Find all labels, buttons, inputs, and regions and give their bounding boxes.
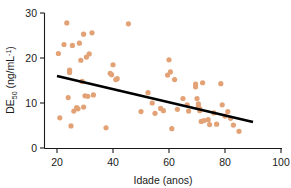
data-point xyxy=(145,90,150,95)
data-point xyxy=(110,62,115,67)
y-tick-label: 10 xyxy=(25,97,37,109)
y-axis-tick-labels: 30 20 10 0 xyxy=(25,7,37,154)
x-tick-label: 40 xyxy=(107,156,119,168)
x-tick-label: 60 xyxy=(163,156,175,168)
y-axis-ticks xyxy=(40,13,45,148)
x-axis-ticks xyxy=(57,149,281,154)
data-point xyxy=(161,108,166,113)
svg-text:DE50 (ng/mL-1): DE50 (ng/mL-1) xyxy=(4,46,18,114)
data-point xyxy=(85,94,90,99)
data-point xyxy=(64,20,69,25)
data-point xyxy=(81,32,86,37)
data-point xyxy=(193,84,198,89)
data-point xyxy=(152,111,157,116)
data-point xyxy=(61,42,66,47)
data-point xyxy=(67,70,72,75)
data-point xyxy=(70,43,75,48)
x-axis-tick-labels: 20 40 60 80 100 xyxy=(51,156,290,168)
data-point xyxy=(186,109,191,114)
data-point xyxy=(75,106,80,111)
data-point xyxy=(218,81,223,86)
y-axis-title-units-post: ) xyxy=(4,46,16,50)
y-axis-title-units-pre: (ng/mL xyxy=(4,56,16,92)
y-axis-title: DE50 (ng/mL-1) xyxy=(4,46,18,114)
data-point xyxy=(150,100,155,105)
data-point xyxy=(200,80,205,85)
y-axis-title-subscript: 50 xyxy=(11,91,18,99)
data-point xyxy=(206,117,211,122)
data-point xyxy=(169,126,174,131)
chart-canvas: 30 20 10 0 20 40 60 80 100 Idade (anos) … xyxy=(0,0,291,188)
data-point xyxy=(56,51,61,56)
data-point xyxy=(87,51,92,56)
data-point xyxy=(103,125,108,130)
data-point xyxy=(81,104,86,109)
data-point xyxy=(77,41,82,46)
data-point xyxy=(57,115,62,120)
data-point xyxy=(68,123,73,128)
data-point xyxy=(66,95,71,100)
x-tick-label: 100 xyxy=(272,156,290,168)
data-point xyxy=(180,96,185,101)
data-point xyxy=(115,76,120,81)
data-point xyxy=(175,107,180,112)
data-point xyxy=(168,69,173,74)
y-tick-label: 20 xyxy=(25,52,37,64)
x-axis-title: Idade (anos) xyxy=(134,174,193,186)
data-point xyxy=(166,57,171,62)
data-point xyxy=(207,122,212,127)
data-point xyxy=(225,109,230,114)
data-point xyxy=(194,96,199,101)
data-point xyxy=(91,92,96,97)
y-tick-label: 30 xyxy=(25,7,37,19)
y-axis-title-main: DE xyxy=(4,99,16,114)
data-point xyxy=(78,58,83,63)
data-point xyxy=(138,109,143,114)
data-point xyxy=(214,122,219,127)
data-point xyxy=(236,129,241,134)
data-point xyxy=(126,21,131,26)
data-point xyxy=(172,77,177,82)
data-point xyxy=(231,122,236,127)
data-point xyxy=(109,72,114,77)
data-point xyxy=(89,30,94,35)
data-points-layer xyxy=(56,20,242,134)
x-tick-label: 80 xyxy=(219,156,231,168)
scatter-plot-figure: 30 20 10 0 20 40 60 80 100 Idade (anos) … xyxy=(0,0,291,188)
data-point xyxy=(220,102,225,107)
x-tick-label: 20 xyxy=(51,156,63,168)
y-tick-label: 0 xyxy=(31,142,37,154)
